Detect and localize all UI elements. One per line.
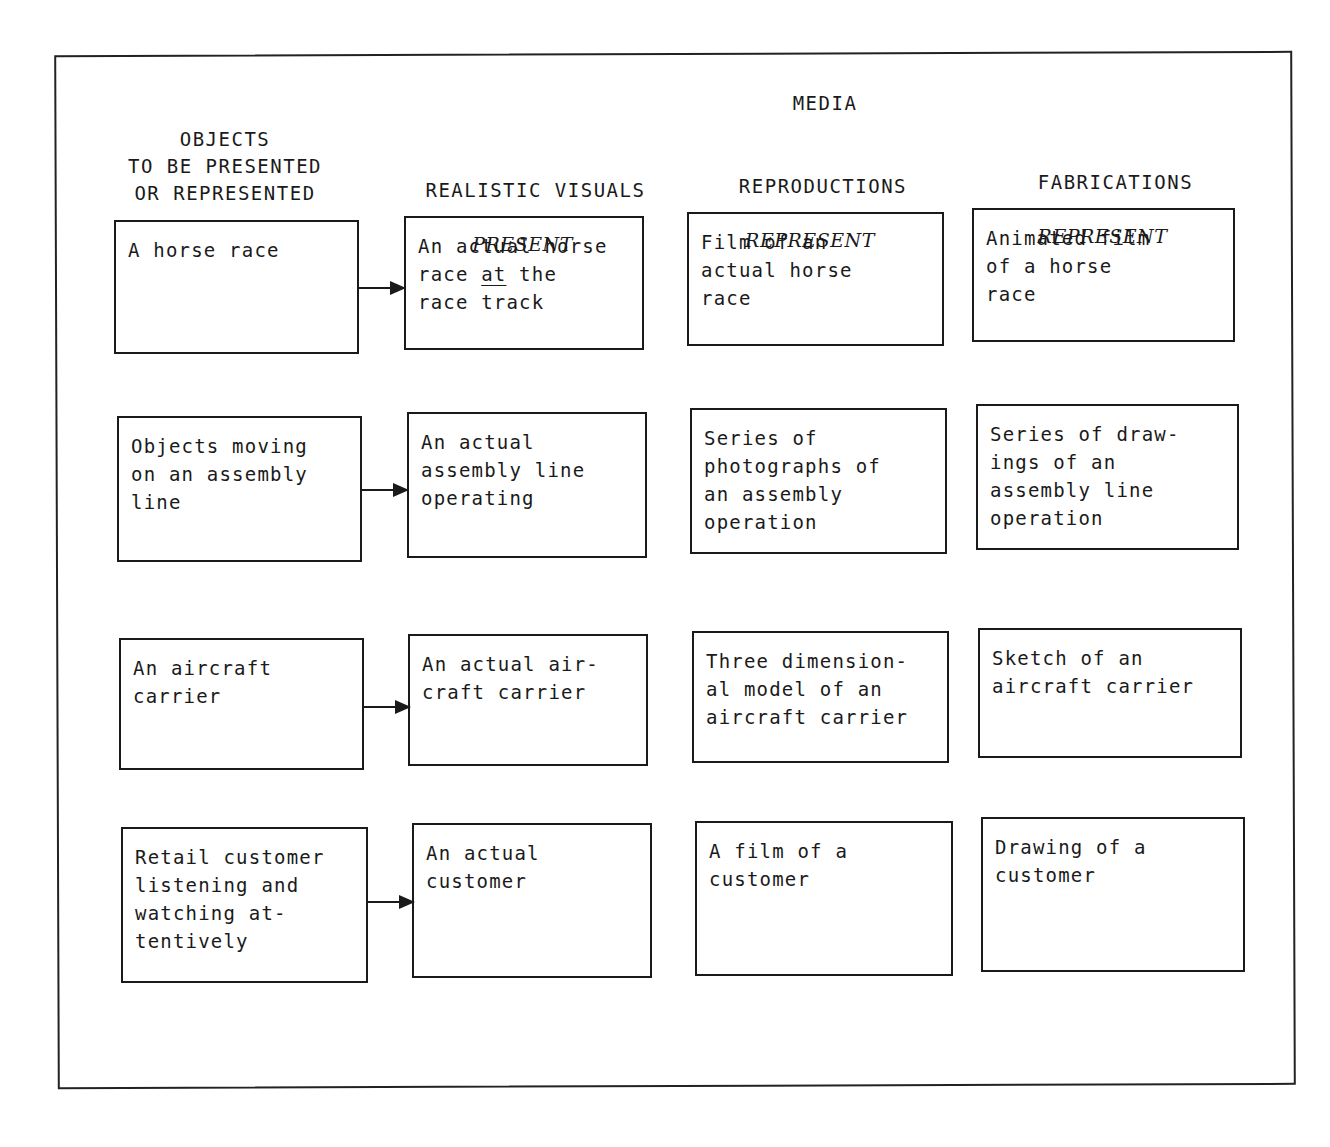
realistic-visual-box: An actual customer [412, 823, 652, 978]
arrow-icon [361, 489, 407, 491]
reproduction-box: Film of an actual horse race [687, 212, 944, 346]
column-title: REALISTIC VISUALS [425, 179, 645, 201]
object-box: A horse race [114, 220, 359, 354]
arrow-icon [367, 901, 413, 903]
arrow-icon [358, 287, 404, 289]
reproduction-box: Series of photographs of an assembly ope… [690, 408, 947, 554]
column-title: REPRODUCTIONS [739, 175, 907, 197]
object-box: Retail customer listening and watching a… [121, 827, 368, 983]
reproduction-box: Three dimension- al model of an aircraft… [692, 631, 949, 763]
fabrication-box: Drawing of a customer [981, 817, 1245, 972]
realistic-visual-box: An actual air- craft carrier [408, 634, 648, 766]
box-text-underlined: at [481, 263, 506, 285]
media-header: MEDIA [760, 90, 890, 117]
realistic-visual-box: An actual horse race at the race track [404, 216, 644, 350]
column-header-objects: OBJECTS TO BE PRESENTED OR REPRESENTED [115, 126, 335, 207]
fabrication-box: Series of draw- ings of an assembly line… [976, 404, 1239, 550]
fabrication-box: Sketch of an aircraft carrier [978, 628, 1242, 758]
object-box: An aircraft carrier [119, 638, 364, 770]
realistic-visual-box: An actual assembly line operating [407, 412, 647, 558]
arrow-icon [363, 706, 409, 708]
fabrication-box: Animated film of a horse race [972, 208, 1235, 342]
column-title: FABRICATIONS [1038, 171, 1193, 193]
reproduction-box: A film of a customer [695, 821, 953, 976]
object-box: Objects moving on an assembly line [117, 416, 362, 562]
